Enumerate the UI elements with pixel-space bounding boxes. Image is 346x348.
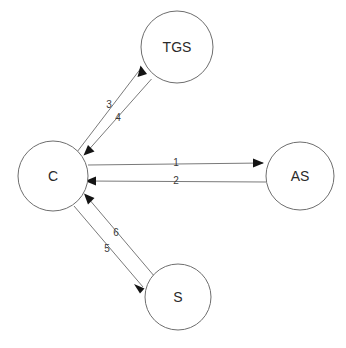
edge-as-to-c: 2	[85, 175, 266, 186]
node-as[interactable]: AS	[266, 142, 334, 210]
arrowhead-into-as-icon	[253, 159, 264, 168]
protocol-diagram: 1 2 3 4 5 6	[0, 0, 346, 348]
node-s-label: S	[173, 289, 182, 305]
node-c[interactable]: C	[18, 141, 88, 211]
edge-3-line	[77, 68, 142, 153]
edge-c-to-as: 1	[88, 157, 264, 168]
edge-6-line	[86, 195, 156, 277]
edge-4-label: 4	[115, 112, 121, 123]
node-tgs-label: TGS	[163, 39, 192, 55]
diagram-canvas: 1 2 3 4 5 6	[0, 0, 346, 348]
edge-5-label: 5	[104, 243, 110, 254]
edge-c-to-tgs: 3	[77, 66, 147, 153]
edge-1-label: 1	[173, 157, 179, 168]
edge-tgs-to-c: 4	[84, 79, 152, 156]
node-as-label: AS	[291, 168, 310, 184]
arrowhead-into-c-from-s-icon	[84, 194, 95, 205]
edge-2-label: 2	[173, 175, 179, 186]
edge-6-label: 6	[113, 227, 119, 238]
arrowhead-into-c-from-tgs-icon	[84, 145, 95, 156]
node-c-label: C	[48, 168, 58, 184]
edge-c-to-s: 5	[74, 206, 145, 294]
node-s[interactable]: S	[145, 264, 211, 330]
edge-3-label: 3	[106, 99, 112, 110]
node-tgs[interactable]: TGS	[141, 11, 213, 83]
edge-s-to-c: 6	[84, 194, 155, 278]
arrowhead-into-s-icon	[134, 284, 145, 294]
